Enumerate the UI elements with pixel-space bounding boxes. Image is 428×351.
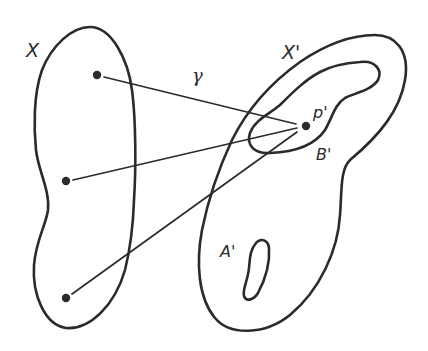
point-p-prime	[302, 122, 310, 130]
label-b-prime: B'	[316, 145, 331, 164]
point-x2	[62, 177, 70, 185]
point-x3	[62, 294, 70, 302]
label-a-prime: A'	[219, 242, 235, 261]
diagram-canvas: X X' γ p' B' A'	[0, 0, 428, 351]
region-x-prime-outline	[199, 35, 406, 331]
label-gamma: γ	[192, 65, 203, 86]
label-p-prime: p'	[312, 103, 328, 122]
region-a-prime-outline	[244, 240, 270, 300]
ray-3	[72, 132, 297, 294]
label-x-prime: X'	[281, 41, 300, 63]
point-x1	[93, 71, 101, 79]
label-x: X	[25, 39, 40, 61]
